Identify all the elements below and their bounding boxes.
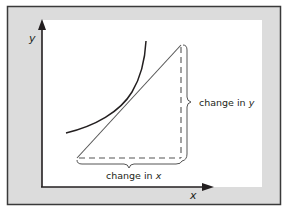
y-axis-label: y: [28, 32, 36, 45]
change-in-y-label: change in y: [199, 97, 255, 108]
slope-diagram: y x change in y change in x: [0, 0, 288, 213]
diagram-canvas: y x change in y change in x: [0, 0, 288, 213]
change-in-x-label: change in x: [106, 170, 162, 181]
x-axis-label: x: [189, 189, 197, 202]
